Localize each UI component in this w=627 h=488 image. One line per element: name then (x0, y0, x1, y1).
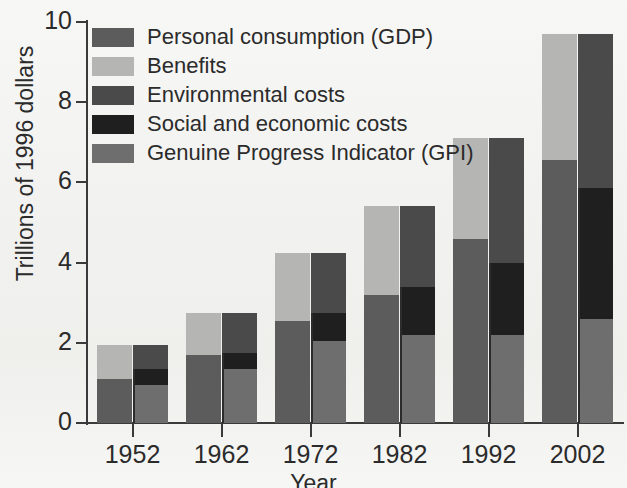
bar-segment (97, 345, 132, 379)
x-tick-mark (488, 424, 490, 437)
legend-swatch-icon (92, 28, 134, 47)
bar-segment (489, 335, 524, 423)
bar-gdp (275, 253, 310, 423)
x-tick-label: 1982 (355, 440, 445, 468)
y-tick-label: 2 (22, 329, 72, 354)
y-tick-label: 4 (22, 249, 72, 274)
bar-segment (311, 341, 346, 423)
bar-gpi-decomposition (133, 345, 168, 423)
bar-segment (578, 188, 613, 318)
legend-item: Personal consumption (GDP) (92, 24, 512, 50)
x-tick-mark (132, 424, 134, 437)
bar-gpi-decomposition (489, 138, 524, 423)
bar-segment (364, 206, 399, 294)
bar-segment (133, 369, 168, 385)
y-tick-mark (76, 342, 87, 344)
bar-divider-line (489, 263, 491, 423)
x-tick-label: 1962 (177, 440, 267, 468)
x-axis-label: Year (0, 470, 627, 488)
bar-segment (133, 345, 168, 369)
bar-segment (97, 379, 132, 423)
bar-segment (311, 253, 346, 313)
bar-gdp (97, 345, 132, 423)
x-tick-mark (221, 424, 223, 437)
bar-segment (400, 206, 435, 286)
bar-gdp (364, 206, 399, 423)
legend-item: Social and economic costs (92, 111, 512, 137)
bar-gdp (186, 313, 221, 423)
legend-label: Benefits (147, 55, 227, 77)
bar-segment (186, 313, 221, 355)
bar-segment (311, 313, 346, 341)
bar-divider-line (578, 188, 580, 423)
bar-gpi-decomposition (400, 206, 435, 423)
bar-gpi-decomposition (311, 253, 346, 423)
bar-divider-line (311, 313, 313, 423)
y-tick-mark (76, 422, 87, 424)
y-tick-mark (76, 101, 87, 103)
bar-segment (542, 34, 577, 160)
bar-segment (275, 253, 310, 321)
bar-segment (453, 239, 488, 423)
bar-divider-line (400, 287, 402, 423)
bar-gpi-decomposition (222, 313, 257, 423)
x-tick-label: 1992 (444, 440, 534, 468)
y-axis-label: Trillions of 1996 dollars (12, 0, 39, 329)
bar-segment (222, 369, 257, 423)
bar-segment (186, 355, 221, 423)
x-tick-mark (577, 424, 579, 437)
bar-segment (364, 295, 399, 423)
legend-label: Personal consumption (GDP) (147, 26, 433, 48)
x-tick-mark (310, 424, 312, 437)
bar-segment (133, 385, 168, 423)
bar-segment (542, 160, 577, 423)
y-tick-mark (76, 181, 87, 183)
legend-label: Social and economic costs (147, 113, 407, 135)
bar-segment (489, 263, 524, 335)
legend-swatch-icon (92, 86, 134, 105)
y-tick-mark (76, 262, 87, 264)
x-tick-mark (399, 424, 401, 437)
y-tick-label: 6 (22, 168, 72, 193)
legend-item: Genuine Progress Indicator (GPI) (92, 140, 512, 166)
bar-segment (222, 353, 257, 369)
bar-divider-line (133, 369, 135, 423)
bar-segment (400, 335, 435, 423)
legend-item: Benefits (92, 53, 512, 79)
x-tick-label: 1952 (88, 440, 178, 468)
y-tick-label: 8 (22, 88, 72, 113)
legend-swatch-icon (92, 144, 134, 163)
chart-figure: Trillions of 1996 dollars 0246810 195219… (0, 0, 627, 488)
legend-swatch-icon (92, 57, 134, 76)
y-tick-label: 0 (22, 409, 72, 434)
legend-swatch-icon (92, 115, 134, 134)
bar-segment (400, 287, 435, 335)
bar-segment (578, 34, 613, 188)
bar-gdp (542, 34, 577, 423)
bar-segment (578, 319, 613, 423)
chart-legend: Personal consumption (GDP)BenefitsEnviro… (92, 24, 512, 169)
bar-divider-line (222, 353, 224, 423)
bar-segment (222, 313, 257, 353)
bar-gdp (453, 138, 488, 423)
bar-gpi-decomposition (578, 34, 613, 423)
legend-item: Environmental costs (92, 82, 512, 108)
x-tick-label: 2002 (533, 440, 623, 468)
y-tick-mark (76, 21, 87, 23)
x-tick-label: 1972 (266, 440, 356, 468)
y-tick-label: 10 (22, 8, 72, 33)
legend-label: Environmental costs (147, 84, 345, 106)
bar-segment (275, 321, 310, 423)
legend-label: Genuine Progress Indicator (GPI) (147, 142, 473, 164)
